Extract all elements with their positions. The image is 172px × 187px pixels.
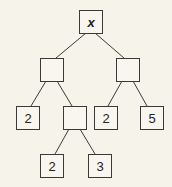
node-left-leaf: 2 [16, 106, 40, 130]
node-left [40, 58, 64, 82]
edge-mid-leaf-a [55, 129, 69, 154]
node-right-leaf-b: 5 [140, 106, 164, 130]
edge-right-leaf-b [133, 81, 147, 106]
edge-left-leaf [31, 81, 46, 106]
edge-root-left [56, 33, 86, 58]
node-root: x [79, 10, 103, 34]
node-mid-leaf-b: 3 [88, 154, 112, 178]
edge-root-right [95, 33, 124, 58]
node-right [116, 58, 140, 82]
node-mid-leaf-a: 2 [40, 154, 64, 178]
edge-right-leaf-a [108, 81, 122, 106]
node-right-leaf-a: 2 [94, 106, 118, 130]
edge-left-mid [57, 81, 72, 106]
edge-mid-leaf-b [80, 129, 95, 154]
node-left-mid [63, 106, 87, 130]
